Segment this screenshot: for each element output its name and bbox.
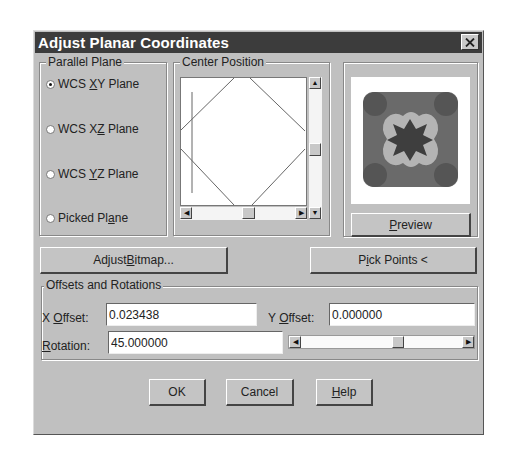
scroll-up-button[interactable]: ▲ <box>309 77 321 89</box>
y-offset-input[interactable] <box>329 303 475 326</box>
preview-image <box>363 92 458 187</box>
help-button[interactable]: Help <box>316 379 373 406</box>
close-icon <box>465 38 475 47</box>
pick-points-button[interactable]: Pick Points < <box>310 247 477 274</box>
radio-picked-plane[interactable]: Picked Plane <box>46 211 128 225</box>
rotation-label: Rotation: <box>42 339 90 353</box>
parallel-plane-group: Parallel Plane WCS XY Plane WCS XZ Plane… <box>39 62 167 236</box>
center-position-label: Center Position <box>180 55 266 69</box>
center-position-group: Center Position ▲ ▼ ◀ ▶ <box>173 62 330 236</box>
radio-indicator <box>46 170 55 179</box>
offsets-rotations-group: Offsets and Rotations X Offset: Y Offset… <box>41 286 478 360</box>
y-offset-label: Y Offset: <box>268 311 314 325</box>
window-title: Adjust Planar Coordinates <box>38 34 229 51</box>
ok-button[interactable]: OK <box>149 379 206 406</box>
radio-label: WCS XZ Plane <box>58 122 139 136</box>
rotation-scroll-right-button[interactable]: ▶ <box>462 336 474 348</box>
scroll-down-button[interactable]: ▼ <box>309 207 321 219</box>
preview-button[interactable]: Preview <box>351 213 471 237</box>
rotation-input[interactable] <box>108 331 283 354</box>
close-button[interactable] <box>461 34 479 50</box>
radio-label: WCS YZ Plane <box>58 167 139 181</box>
vertical-scroll-thumb[interactable] <box>309 143 321 156</box>
horizontal-scroll-thumb[interactable] <box>242 207 255 219</box>
vertical-scrollbar[interactable]: ▲ ▼ <box>309 77 322 219</box>
bitmap-outline-diagram <box>181 78 306 205</box>
cancel-button[interactable]: Cancel <box>226 379 294 406</box>
x-offset-input[interactable] <box>106 303 257 326</box>
radio-wcs-xz-plane[interactable]: WCS XZ Plane <box>46 122 139 136</box>
preview-image-frame <box>351 77 470 204</box>
horizontal-scrollbar[interactable]: ◀ ▶ <box>180 207 307 220</box>
radio-indicator-selected <box>46 80 55 89</box>
preview-group: Preview <box>343 62 478 237</box>
offsets-rotations-label: Offsets and Rotations <box>44 278 163 292</box>
rotation-slider[interactable]: ◀ ▶ <box>288 335 475 349</box>
rotation-scroll-left-button[interactable]: ◀ <box>289 336 301 348</box>
radio-indicator <box>46 125 55 134</box>
radio-indicator <box>46 214 55 223</box>
title-bar[interactable]: Adjust Planar Coordinates <box>35 32 482 53</box>
adjust-planar-coordinates-dialog: Adjust Planar Coordinates Parallel Plane… <box>33 30 484 435</box>
radio-label: WCS XY Plane <box>58 77 139 91</box>
adjust-bitmap-button[interactable]: Adjust Bitmap... <box>40 247 228 274</box>
x-offset-label: X Offset: <box>42 311 88 325</box>
radio-wcs-xy-plane[interactable]: WCS XY Plane <box>46 77 139 91</box>
center-position-canvas[interactable] <box>180 77 307 206</box>
rotation-scroll-thumb[interactable] <box>392 336 404 348</box>
parallel-plane-label: Parallel Plane <box>46 55 124 69</box>
radio-label: Picked Plane <box>58 211 128 225</box>
scroll-right-button[interactable]: ▶ <box>295 207 307 219</box>
scroll-left-button[interactable]: ◀ <box>180 207 192 219</box>
radio-wcs-yz-plane[interactable]: WCS YZ Plane <box>46 167 139 181</box>
